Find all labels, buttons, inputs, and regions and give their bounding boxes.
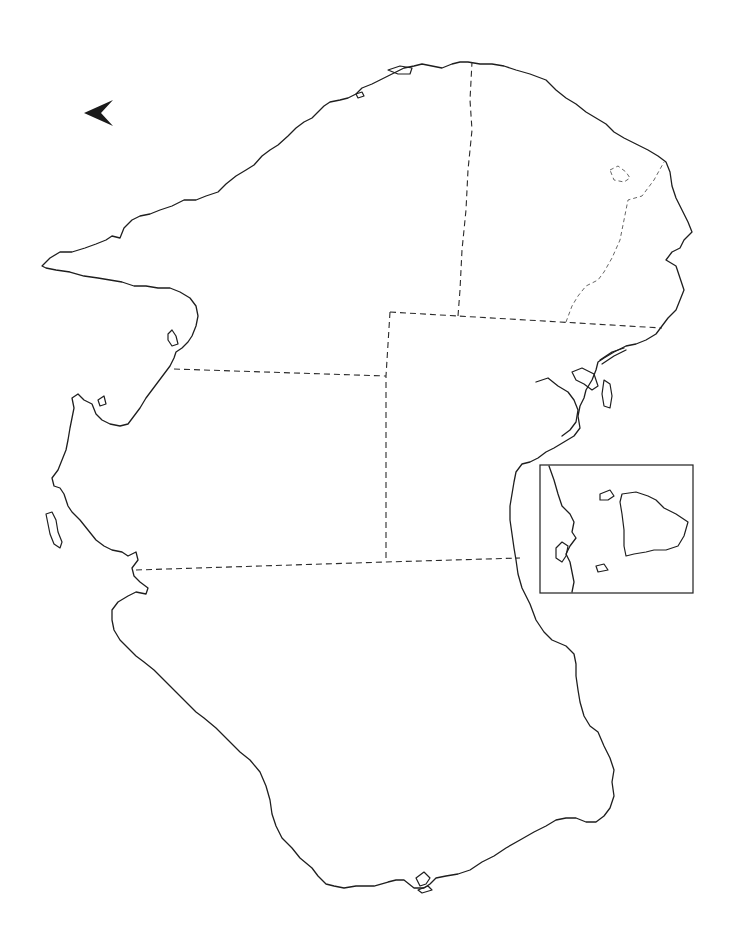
inset-map	[540, 465, 693, 593]
outline-map	[0, 0, 736, 946]
region-border	[458, 62, 472, 316]
river-mouth	[600, 348, 626, 364]
island	[98, 396, 106, 406]
inset-frame	[540, 465, 693, 593]
region-border	[174, 369, 386, 376]
north-arrow-icon	[84, 100, 113, 126]
island	[418, 886, 432, 893]
peninsula	[572, 368, 598, 390]
lake-outline	[610, 166, 630, 182]
island	[168, 330, 178, 346]
inset-island	[556, 542, 568, 562]
island	[46, 512, 62, 548]
inset-coastline	[549, 466, 576, 592]
region-border	[390, 312, 662, 328]
island	[416, 872, 430, 886]
inset-main-island	[620, 492, 688, 556]
inset-island	[600, 490, 614, 500]
inset-island	[596, 564, 608, 572]
coastline	[42, 62, 692, 888]
region-border	[136, 558, 520, 570]
island	[602, 380, 612, 408]
region-border	[566, 162, 664, 322]
bay-inlet	[536, 378, 578, 436]
region-border	[386, 312, 390, 562]
